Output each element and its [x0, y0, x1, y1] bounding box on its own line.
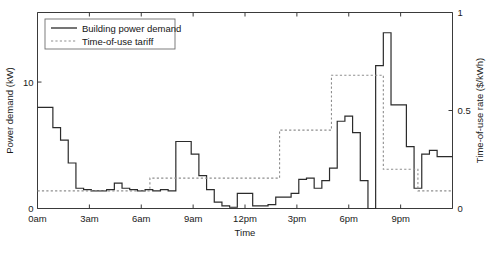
legend-label-1: Time-of-use tariff — [82, 36, 154, 47]
y2-axis-title: Time-of-use rate ($/kWh) — [474, 58, 485, 163]
legend-label-0: Building power demand — [82, 23, 181, 34]
power-demand-tariff-chart: 0am3am6am9am12pm3pm6pm9pmTime010Power de… — [0, 0, 494, 254]
y2-tick-label-2: 1 — [458, 7, 463, 18]
y-tick-label-0: 0 — [28, 203, 33, 214]
y2-tick-label-1: 0.5 — [458, 105, 471, 116]
x-axis-title: Time — [235, 227, 256, 238]
series-building-power-demand — [38, 33, 453, 209]
x-tick-label-3: 9am — [184, 213, 203, 224]
x-tick-label-5: 3pm — [288, 213, 307, 224]
y-axis-title: Power demand (kW) — [4, 67, 15, 154]
x-tick-label-6: 6pm — [340, 213, 359, 224]
x-tick-label-4: 12pm — [233, 213, 257, 224]
x-tick-label-2: 6am — [132, 213, 151, 224]
y2-tick-label-0: 0 — [458, 203, 463, 214]
x-tick-label-7: 9pm — [391, 213, 410, 224]
chart-figure: 0am3am6am9am12pm3pm6pm9pmTime010Power de… — [0, 0, 494, 254]
series-time-of-use-tariff — [38, 75, 453, 191]
x-tick-label-1: 3am — [80, 213, 99, 224]
y-tick-label-1: 10 — [23, 77, 34, 88]
x-tick-label-0: 0am — [28, 213, 47, 224]
